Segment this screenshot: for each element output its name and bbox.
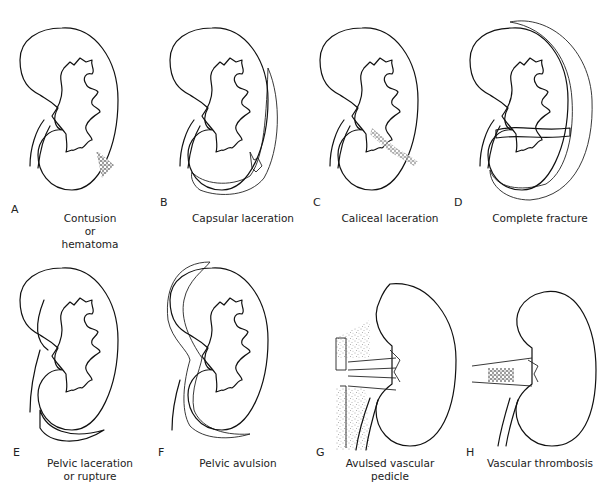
panel-caption: Complete fracture [490,212,590,225]
panel-h: H Vascular thrombosis [450,250,609,491]
panel-b: B Capsular laceration [150,0,300,250]
panel-caption: Pelvic laceration or rupture [40,457,140,483]
panel-c: C Caliceal laceration [300,0,450,250]
kidney-complete-fracture-illustration [450,0,609,210]
panel-caption: Contusion or hematoma [40,212,140,251]
panel-e: E Pelvic laceration or rupture [0,250,150,491]
kidney-pelvic-avulsion-illustration [150,250,300,450]
panel-caption: Pelvic avulsion [188,457,288,470]
kidney-vascular-thrombosis-illustration [450,250,609,450]
panel-letter: E [13,446,20,459]
panel-a: A Contusion or hematoma [0,0,150,250]
kidney-contusion-illustration [0,0,150,210]
kidney-avulsed-pedicle-illustration [300,250,450,450]
panel-letter: H [466,446,474,459]
panel-letter: G [316,446,325,459]
kidney-capsular-laceration-illustration [150,0,300,210]
panel-letter: C [313,196,321,209]
panel-caption: Caliceal laceration [340,212,440,225]
panel-caption: Avulsed vascular pedicle [340,457,440,483]
panel-letter: D [454,196,462,209]
panel-letter: F [158,446,164,459]
panel-caption: Vascular thrombosis [485,457,595,470]
panel-letter: A [11,203,19,216]
panel-d: D Complete fracture [450,0,609,250]
panel-caption: Capsular laceration [188,212,298,225]
panel-f: F Pelvic avulsion [150,250,300,491]
panel-g: G Avulsed vascular pedicle [300,250,450,491]
kidney-pelvic-laceration-illustration [0,250,150,450]
panel-letter: B [160,196,168,209]
kidney-caliceal-laceration-illustration [300,0,450,210]
